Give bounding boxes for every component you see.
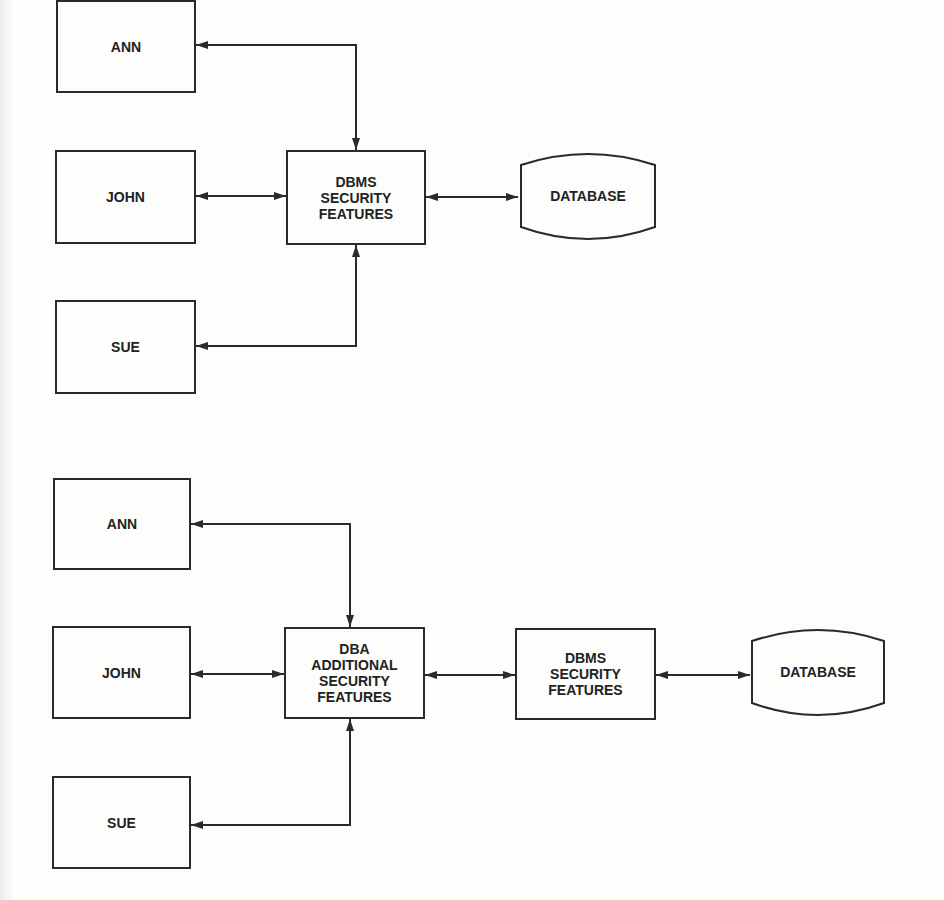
user-box-sue: SUE — [55, 300, 196, 394]
user-box-john: JOHN — [55, 150, 196, 244]
dba-additional-security-box: DBA ADDITIONAL SECURITY FEATURES — [284, 627, 425, 719]
user-box-sue: SUE — [52, 776, 191, 869]
database-cylinder: DATABASE — [750, 623, 886, 721]
box-label-line: DBMS — [565, 650, 606, 666]
dbms-security-box: DBMS SECURITY FEATURES — [286, 150, 426, 245]
dbms-security-box: DBMS SECURITY FEATURES — [515, 628, 656, 720]
user-box-ann: ANN — [53, 478, 191, 570]
user-box-john: JOHN — [52, 626, 191, 719]
user-label: SUE — [107, 815, 136, 831]
user-label: JOHN — [102, 665, 141, 681]
box-label-line: SECURITY — [321, 190, 392, 206]
user-label: ANN — [111, 39, 141, 55]
database-label: DATABASE — [780, 664, 856, 680]
box-label-line: ADDITIONAL — [311, 657, 397, 673]
connector-ann-dbms — [196, 45, 356, 150]
connector-sue-dba — [191, 719, 350, 825]
box-label-line: FEATURES — [317, 689, 391, 705]
user-label: ANN — [107, 516, 137, 532]
connector-layer — [0, 0, 944, 900]
user-label: JOHN — [106, 189, 145, 205]
database-cylinder: DATABASE — [519, 147, 657, 245]
box-label-line: SECURITY — [319, 673, 390, 689]
user-box-ann: ANN — [56, 0, 196, 93]
connector-ann-dba — [191, 524, 350, 627]
box-label-line: DBMS — [335, 174, 376, 190]
box-label-line: FEATURES — [548, 682, 622, 698]
box-label-line: DBA — [339, 641, 369, 657]
connector-sue-dbms — [196, 245, 356, 346]
database-label: DATABASE — [550, 188, 626, 204]
user-label: SUE — [111, 339, 140, 355]
box-label-line: SECURITY — [550, 666, 621, 682]
box-label-line: FEATURES — [319, 206, 393, 222]
